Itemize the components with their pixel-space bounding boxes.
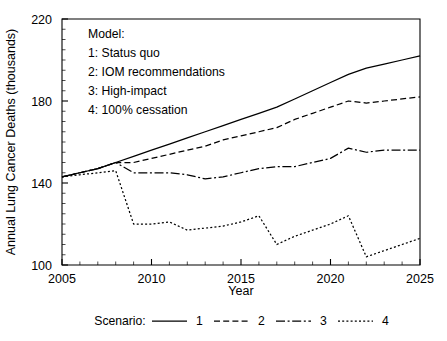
x-axis-ticks bbox=[62, 259, 420, 265]
y-axis-title: Annual Lung Cancer Deaths (thousands) bbox=[4, 29, 18, 256]
x-tick-label: 2010 bbox=[138, 272, 166, 286]
lung-cancer-deaths-line-chart: 100140180220 20052010201520202025 Year A… bbox=[0, 0, 447, 341]
model-entry-3: 3: High-impact bbox=[88, 84, 167, 98]
model-entry-4: 4: 100% cessation bbox=[88, 103, 188, 117]
y-tick-label: 180 bbox=[31, 95, 52, 109]
legend-title: Scenario: bbox=[94, 314, 146, 328]
y-axis-ticks bbox=[62, 19, 68, 265]
x-tick-label: 2020 bbox=[317, 272, 345, 286]
chart-canvas: 100140180220 20052010201520202025 Year A… bbox=[0, 0, 447, 341]
legend-label-2: 2 bbox=[258, 314, 265, 328]
series-line-3 bbox=[62, 148, 420, 179]
x-axis-title: Year bbox=[228, 284, 253, 298]
model-heading: Model: bbox=[88, 27, 125, 41]
y-tick-label: 100 bbox=[31, 259, 52, 273]
model-entry-1: 1: Status quo bbox=[88, 46, 160, 60]
legend-label-3: 3 bbox=[320, 314, 327, 328]
model-annotation-box: Model: 1: Status quo 2: IOM recommendati… bbox=[88, 27, 225, 117]
series-line-4 bbox=[62, 171, 420, 257]
x-tick-label: 2025 bbox=[406, 272, 434, 286]
model-entry-2: 2: IOM recommendations bbox=[88, 65, 225, 79]
legend-label-4: 4 bbox=[382, 314, 389, 328]
x-tick-label: 2005 bbox=[48, 272, 76, 286]
scenario-legend: Scenario: 1 2 3 4 bbox=[94, 314, 389, 328]
legend-label-1: 1 bbox=[196, 314, 203, 328]
y-tick-label: 220 bbox=[31, 13, 52, 27]
y-axis-tick-labels: 100140180220 bbox=[31, 13, 52, 273]
y-tick-label: 140 bbox=[31, 177, 52, 191]
